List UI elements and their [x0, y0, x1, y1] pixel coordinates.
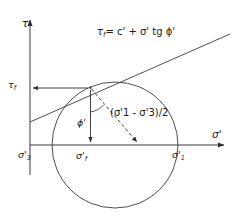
phi-angle-label: ϕ': [77, 118, 86, 128]
tau-f-subscript: f: [14, 84, 16, 92]
radius-expression-label: (σ'1 - σ'3)/2: [110, 108, 168, 118]
sigma-3-subscript: 3: [27, 154, 31, 162]
tangent-point-marker: [89, 87, 91, 89]
tau-axis-label: τ: [22, 18, 28, 29]
phi-angle-arc: [91, 105, 104, 112]
failure-envelope-equation: τf= c' + σ' tg ϕ': [97, 27, 175, 39]
sigma-1-subscript: 1: [181, 154, 185, 162]
sigma-f-subscript: f: [85, 155, 87, 163]
mohr-circle-figure: τ σ' τf σ'3 σ'f σ'1 ϕ' (σ'1 - σ'3)/2 τf=…: [0, 0, 249, 222]
sigma-3-label: σ'3: [18, 150, 31, 161]
sigma-axis-label: σ': [212, 129, 222, 140]
sigma-f-label: σ'f: [76, 151, 87, 162]
sigma-1-label: σ'1: [172, 150, 185, 161]
tau-f-label: τf: [8, 80, 16, 91]
equation-rhs: = c' + σ' tg ϕ': [105, 26, 175, 37]
